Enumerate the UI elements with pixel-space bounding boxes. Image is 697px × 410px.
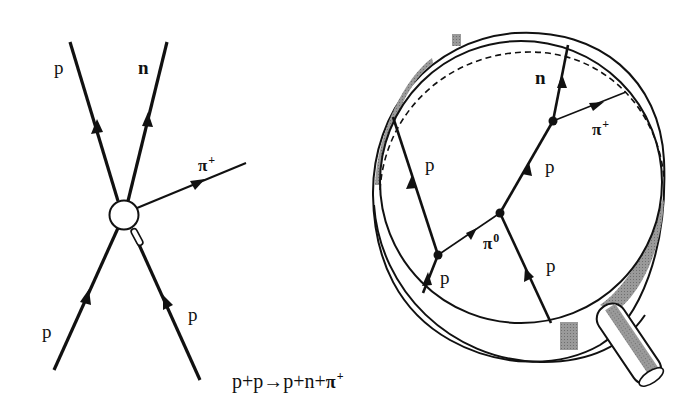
- equation-term: p: [253, 370, 263, 392]
- label-neutron: n: [535, 68, 546, 87]
- arrow-icon: [142, 112, 153, 127]
- pion-charge: +: [602, 117, 609, 131]
- label-pion-zero: π0: [483, 232, 499, 252]
- arrow-icon: [190, 179, 205, 190]
- label-outgoing-pion: π+: [198, 154, 215, 174]
- label-outgoing-proton: p: [54, 58, 64, 77]
- equation-pion-charge: +: [337, 369, 344, 383]
- ring-shading-top: [452, 34, 461, 46]
- target-tube-stub: [130, 228, 144, 247]
- label-pion-plus: π+: [592, 118, 609, 138]
- vertex-dot: [549, 117, 558, 126]
- pion-symbol: π: [483, 234, 492, 253]
- label-outgoing-neutron: n: [138, 58, 149, 77]
- equation-operator: +: [293, 370, 304, 392]
- vertex-dot: [434, 251, 443, 260]
- equation-term: p: [232, 370, 242, 392]
- equation-term: n: [305, 370, 315, 392]
- label-proton-left-track: p: [425, 155, 435, 174]
- diagram-canvas: [0, 0, 697, 410]
- label-incoming-proton-left: p: [42, 322, 52, 341]
- label-incoming-proton-right: p: [188, 305, 198, 324]
- equation-arrow: →: [263, 370, 283, 392]
- equation-operator: +: [315, 370, 326, 392]
- label-proton-lower-left: p: [440, 268, 450, 287]
- pion-symbol: π: [592, 120, 601, 139]
- vertex-dot: [496, 209, 505, 218]
- equation-operator: +: [242, 370, 253, 392]
- label-proton-upper-right: p: [545, 157, 555, 176]
- track-outgoing-proton: [70, 42, 118, 201]
- vertex-circle: [110, 201, 139, 230]
- equation-term: p: [283, 370, 293, 392]
- label-proton-lower-right: p: [546, 256, 556, 275]
- left-vertex-diagram: [54, 42, 246, 380]
- right-ring-diagram: [373, 33, 667, 391]
- reaction-equation: p+p→p+n+π+: [232, 369, 344, 393]
- track-outgoing-pion: [137, 163, 246, 208]
- pion-charge: 0: [493, 231, 499, 245]
- equation-pion: π: [326, 372, 336, 392]
- pion-symbol: π: [198, 156, 207, 175]
- ring-shading-bottom: [560, 322, 578, 350]
- ring-inner-edge: [380, 41, 662, 323]
- pion-charge: +: [208, 153, 215, 167]
